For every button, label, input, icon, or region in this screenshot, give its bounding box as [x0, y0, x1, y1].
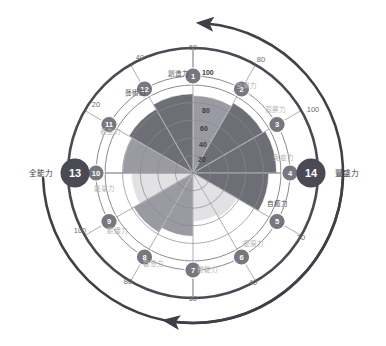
- outer-tick-7: 20: [297, 233, 305, 242]
- sector-label-12: 創造力: [168, 69, 189, 78]
- node-number-5: 5: [275, 217, 279, 226]
- outer-node-label-13: 全能力: [29, 168, 53, 178]
- sector-wedges: [123, 94, 277, 237]
- radar-chart-svg: 1234567891011121314 全局力洞察力免疫力自癒力復原力體能力智慧…: [0, 0, 386, 346]
- node-number-9: 9: [107, 217, 111, 226]
- node-number-7: 7: [191, 266, 195, 275]
- sector-label-10: 養生力: [100, 127, 121, 136]
- sector-label-11: 藝術力: [125, 88, 146, 97]
- inner-tick-60: 60: [200, 125, 208, 132]
- sector-node-6[interactable]: 6: [233, 249, 249, 265]
- outer-tick-6: 40: [249, 278, 257, 287]
- outer-node-13[interactable]: 13: [61, 159, 90, 188]
- radar-chart-figure: 1234567891011121314 全局力洞察力免疫力自癒力復原力體能力智慧…: [0, 0, 386, 346]
- sector-node-4[interactable]: 4: [282, 165, 298, 181]
- inner-tick-20: 20: [198, 156, 206, 163]
- outer-tick-8: 100: [307, 105, 320, 114]
- outer-tick-1: 40: [136, 53, 144, 62]
- node-number-10: 10: [92, 169, 100, 178]
- node-number-6: 6: [239, 253, 243, 262]
- sector-label-3: 免疫力: [273, 153, 294, 162]
- sector-label-9: 能量力: [94, 184, 115, 193]
- inner-tick-100: 100: [202, 69, 214, 76]
- outer-tick-2: 20: [92, 100, 100, 109]
- sector-node-3[interactable]: 3: [269, 116, 285, 132]
- outer-tick-4: 80: [124, 277, 132, 286]
- sector-label-2: 洞察力: [265, 105, 286, 114]
- sector-label-7: 智慧力: [143, 259, 164, 268]
- node-number-1: 1: [191, 72, 195, 81]
- outer-node-number-13: 13: [69, 167, 81, 179]
- sector-node-5[interactable]: 5: [269, 213, 285, 229]
- outer-tick-0: 60: [189, 43, 197, 52]
- inner-tick-80: 80: [202, 107, 210, 114]
- sector-label-8: 膽識力: [107, 226, 128, 235]
- node-number-3: 3: [275, 120, 279, 129]
- sector-label-6: 體能力: [197, 265, 218, 274]
- outer-tick-3: 100: [74, 226, 87, 235]
- outer-tick-9: 80: [257, 55, 265, 64]
- outer-node-14[interactable]: 14: [297, 159, 326, 188]
- sector-label-4: 自癒力: [267, 199, 288, 208]
- sector-label-1: 全局力: [236, 81, 257, 90]
- outer-node-label-14: 豐盛力: [335, 168, 359, 178]
- outer-tick-5: 60: [189, 294, 197, 303]
- outer-node-number-14: 14: [305, 167, 318, 179]
- inner-tick-40: 40: [199, 141, 207, 148]
- sector-label-5: 復原力: [243, 239, 264, 248]
- sector-node-10[interactable]: 10: [88, 165, 104, 181]
